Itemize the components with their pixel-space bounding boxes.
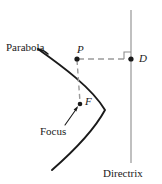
focus-label: Focus: [40, 126, 66, 137]
directrix-label: Directrix: [103, 168, 143, 179]
point-p-label: P: [77, 44, 84, 55]
point-d-label: D: [139, 53, 147, 64]
point-p-marker: [74, 56, 79, 61]
focus-pointer-arrow-icon: [65, 106, 78, 125]
parabola-curve: [38, 49, 105, 170]
point-d-marker: [128, 56, 133, 61]
parabola-label: Parabola: [6, 42, 44, 53]
point-f-marker: [78, 102, 83, 107]
parabola-figure: Parabola Focus Directrix P F D: [0, 0, 162, 184]
point-f-label: F: [85, 96, 92, 107]
figure-canvas: [0, 0, 162, 184]
